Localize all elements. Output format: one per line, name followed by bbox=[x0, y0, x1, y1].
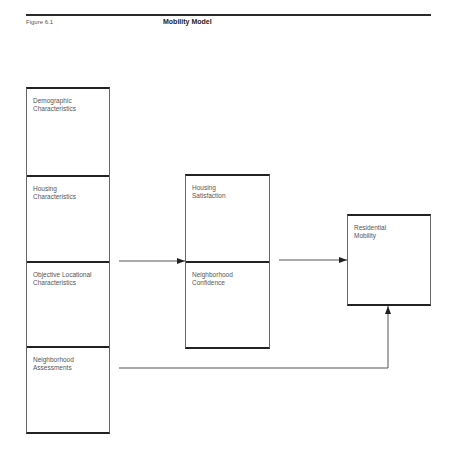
arrow-assessments-to-outcome bbox=[119, 306, 388, 368]
connectors bbox=[0, 0, 451, 458]
